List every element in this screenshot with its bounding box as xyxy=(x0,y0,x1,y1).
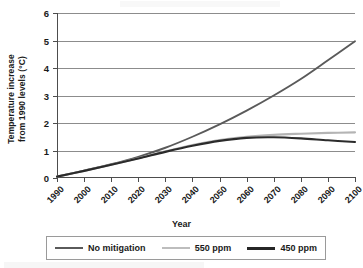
x-tick-mark xyxy=(355,177,356,182)
scan-artifact-top xyxy=(120,1,280,7)
y-tick-label: 0 xyxy=(44,173,49,184)
legend-label: 550 ppm xyxy=(195,243,232,253)
x-axis-title: Year xyxy=(0,219,363,229)
legend-label: 450 ppm xyxy=(280,243,317,253)
legend-item: 450 ppm xyxy=(247,243,317,253)
plot-frame: 0123456 19902000201020202030204020502060… xyxy=(57,13,355,178)
y-tick-label: 5 xyxy=(44,35,49,46)
y-axis-title-line-2: from 1990 levels (°C) xyxy=(17,56,28,142)
chart-legend: No mitigation550 ppm450 ppm xyxy=(46,236,326,260)
legend-swatch xyxy=(247,247,275,250)
y-tick-label: 1 xyxy=(44,145,49,156)
y-tick-label: 2 xyxy=(44,118,49,129)
series-line xyxy=(57,41,355,176)
x-tick-label: 2090 xyxy=(310,184,337,211)
x-tick-label: 2030 xyxy=(148,184,175,211)
x-tick-label: 2050 xyxy=(202,184,229,211)
legend-swatch xyxy=(162,247,190,249)
x-tick-label: 2100 xyxy=(337,184,363,211)
x-tick-label: 2070 xyxy=(256,184,283,211)
legend-item: No mitigation xyxy=(55,243,146,253)
series-line xyxy=(57,137,355,176)
x-tick-label: 1990 xyxy=(39,184,66,211)
legend-item: 550 ppm xyxy=(162,243,232,253)
y-tick-label: 6 xyxy=(44,8,49,19)
chart-figure: Temperature increase from 1990 levels (°… xyxy=(0,0,363,268)
scan-artifact-bottom xyxy=(4,262,204,268)
x-tick-label: 2020 xyxy=(120,184,147,211)
x-tick-label: 2080 xyxy=(283,184,310,211)
legend-label: No mitigation xyxy=(88,243,146,253)
legend-swatch xyxy=(55,247,83,249)
x-tick-label: 2000 xyxy=(66,184,93,211)
y-axis-title: Temperature increase from 1990 levels (°… xyxy=(0,16,34,182)
y-tick-label: 3 xyxy=(44,90,49,101)
y-axis-title-line-1: Temperature increase xyxy=(6,54,17,144)
x-tick-label: 2060 xyxy=(229,184,256,211)
x-tick-label: 2040 xyxy=(175,184,202,211)
plot-area: 0123456 19902000201020202030204020502060… xyxy=(57,13,355,178)
x-tick-label: 2010 xyxy=(93,184,120,211)
y-tick-label: 4 xyxy=(44,63,49,74)
series-curves xyxy=(57,13,355,178)
